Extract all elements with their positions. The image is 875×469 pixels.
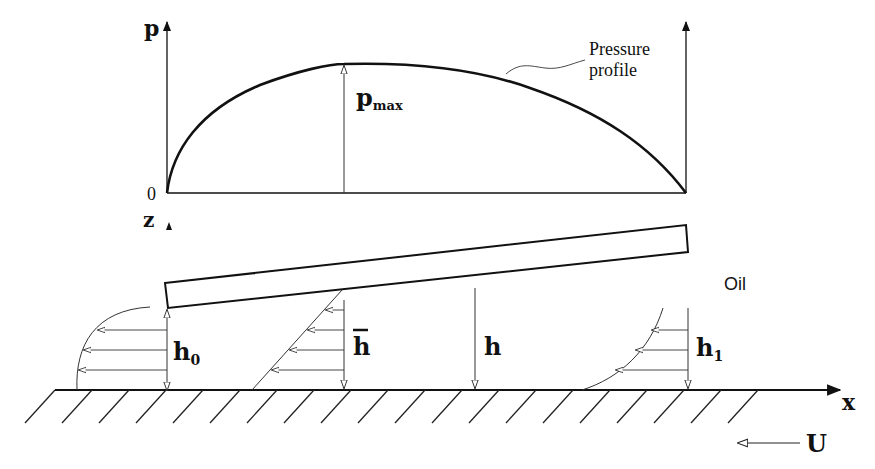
pressure-plot: p 0 pmax Pressure profile <box>144 15 686 204</box>
velocity-profile-h0 <box>77 307 150 390</box>
hbar-label: h <box>353 332 370 361</box>
origin-label: 0 <box>147 184 156 204</box>
velocity-profile-hbar <box>252 290 342 390</box>
svg-text:h0: h0 <box>173 337 200 368</box>
x-axis-label: x <box>842 389 856 415</box>
annotation-pressure: Pressure <box>589 39 650 59</box>
bearing-schematic: z Oil x <box>25 208 856 458</box>
oil-label: Oil <box>724 274 746 294</box>
h0-label: h <box>173 337 190 366</box>
annotation-leader <box>506 60 585 74</box>
velocity-profile-h1 <box>582 308 663 390</box>
z-axis-label: z <box>143 208 154 232</box>
h-label: h <box>484 332 501 361</box>
bearing-diagram: p 0 pmax Pressure profile z Oil <box>0 0 875 469</box>
annotation-profile: profile <box>589 60 637 80</box>
ground-hatching <box>25 390 758 423</box>
section-h0: h0 <box>77 307 201 390</box>
slider-pad <box>165 225 688 308</box>
section-h1: h1 <box>582 308 723 390</box>
p-axis-label: p <box>144 15 159 41</box>
pressure-curve <box>167 64 686 193</box>
h1-label: h <box>696 333 713 362</box>
velocity-label: U <box>806 429 827 458</box>
pmax-label: pmax <box>356 83 403 113</box>
section-h: h <box>475 288 501 388</box>
z-axis-arrow-icon <box>166 222 172 230</box>
svg-text:h1: h1 <box>696 333 723 364</box>
section-hbar: h <box>252 290 370 390</box>
